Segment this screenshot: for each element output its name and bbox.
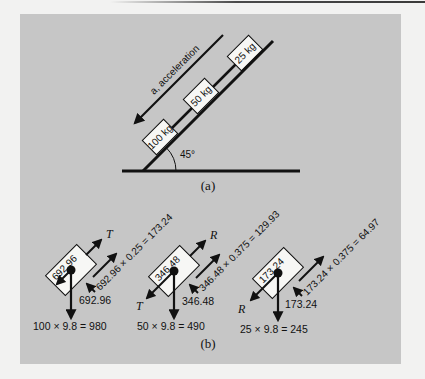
figure-diagram: 45° 100 kg 50 kg 25 kg a, acceleration (… <box>0 0 425 379</box>
caption-a: (a) <box>201 178 215 193</box>
weight-label: 25 × 9.8 = 245 <box>240 323 308 335</box>
caption-b: (b) <box>200 336 215 351</box>
friction-label: 173.24 × 0.375 = 64.97 <box>301 216 382 297</box>
resistance-arrow <box>190 241 205 256</box>
tension-symbol: T <box>106 227 114 241</box>
block-50kg: 50 kg <box>183 78 218 113</box>
incline-diagram: 45° 100 kg 50 kg 25 kg a, acceleration (… <box>122 35 300 193</box>
resistance-symbol: R <box>209 228 218 242</box>
angle-label: 45° <box>180 149 195 160</box>
angle-arc <box>166 148 176 171</box>
tension-symbol: T <box>136 299 144 313</box>
normal-label: 346.48 <box>182 295 214 307</box>
weight-label: 50 × 9.8 = 490 <box>137 320 205 332</box>
acceleration-label: a, acceleration <box>148 43 202 97</box>
normal-label: 692.96 <box>79 294 111 306</box>
incline-line <box>143 41 273 171</box>
resistance-symbol: R <box>237 302 246 316</box>
block-100kg: 100 kg <box>142 119 177 154</box>
acceleration-arrow <box>135 35 223 123</box>
block-25kg: 25 kg <box>227 35 262 70</box>
weight-label: 100 × 9.8 = 980 <box>33 320 107 332</box>
tension-arrow <box>86 240 101 255</box>
normal-label: 173.24 <box>285 298 317 310</box>
